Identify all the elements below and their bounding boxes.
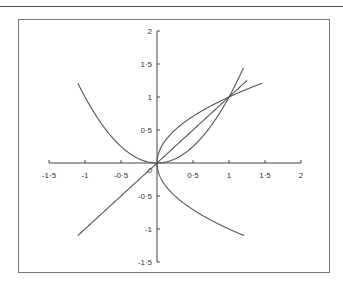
y-tick-label: 2 [148, 27, 153, 36]
x-tick-label: -1 [81, 171, 89, 180]
y-tick-label: 1·5 [140, 60, 152, 69]
y-tick-label: -1·5 [138, 258, 153, 267]
x-tick-label: -0·5 [114, 171, 129, 180]
y-tick-label: -1 [145, 225, 153, 234]
y-tick-label: -0·5 [138, 192, 153, 201]
x-tick-label: 0·5 [187, 171, 199, 180]
y-tick-label: 1 [148, 93, 153, 102]
x-tick-label: 1 [227, 171, 232, 180]
x-tick-label: 1·5 [259, 171, 271, 180]
chart-plot: -1·5-1-0·50·511·52-1·5-1-0·50·511·520 [0, 0, 343, 285]
x-tick-label: 2 [299, 171, 304, 180]
identity-line [78, 81, 247, 236]
x-tick-label: -1·5 [42, 171, 57, 180]
sqrt-curve [157, 83, 262, 163]
y-tick-label: 0·5 [140, 126, 152, 135]
